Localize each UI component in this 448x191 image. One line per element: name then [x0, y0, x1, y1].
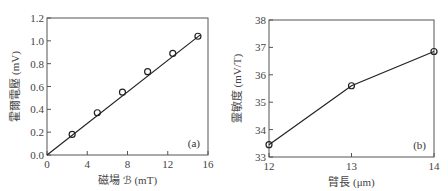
x-tick-label: 4 — [85, 158, 91, 170]
y-tick-label: 0.6 — [30, 81, 44, 93]
x-axis-label: 磁場 ℬ (mT) — [98, 174, 157, 187]
y-tick-label: 37 — [255, 41, 267, 53]
y-axis-label: 靈敏度 (mV/T) — [230, 53, 244, 123]
y-tick-label: 0.4 — [30, 103, 44, 115]
chart-panel-b: 121314333435363738臂長 (μm)靈敏度 (mV/T)(b) — [230, 14, 440, 189]
y-tick-label: 38 — [255, 14, 267, 26]
y-tick-label: 1.2 — [30, 12, 44, 24]
y-tick-label: 34 — [255, 124, 267, 136]
figure: 04812160.00.20.40.60.81.01.2磁場 ℬ (mT)霍爾電… — [0, 0, 448, 191]
y-tick-label: 36 — [255, 69, 267, 81]
x-tick-label: 13 — [346, 160, 358, 172]
y-tick-label: 0.8 — [30, 58, 44, 70]
x-tick-label: 8 — [125, 158, 131, 170]
panel-label: (b) — [413, 139, 426, 152]
data-point-marker — [119, 89, 125, 95]
y-tick-label: 0.2 — [30, 126, 44, 138]
y-tick-label: 33 — [255, 151, 267, 163]
y-axis-label: 霍爾電壓 (mV) — [9, 51, 22, 122]
data-point-marker — [145, 69, 151, 75]
y-tick-label: 1.0 — [30, 35, 44, 47]
x-tick-label: 14 — [429, 160, 441, 172]
panel-label: (a) — [188, 137, 201, 150]
data-point-marker — [69, 131, 75, 137]
y-tick-label: 35 — [255, 96, 267, 108]
plot-frame — [47, 18, 208, 155]
data-line — [269, 52, 434, 145]
data-point-marker — [170, 50, 176, 56]
x-tick-label: 16 — [203, 158, 215, 170]
chart-panel-a: 04812160.00.20.40.60.81.01.2磁場 ℬ (mT)霍爾電… — [9, 12, 214, 187]
x-axis-label: 臂長 (μm) — [328, 176, 375, 189]
x-tick-label: 12 — [162, 158, 173, 170]
x-tick-label: 0 — [44, 158, 50, 170]
y-tick-label: 0.0 — [30, 149, 44, 161]
